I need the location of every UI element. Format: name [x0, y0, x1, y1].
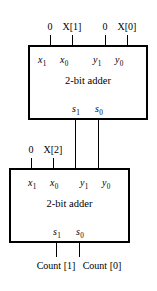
adder-block-top[interactable]: x1 x0 y1 y0 2-bit adder s1 s0 [28, 45, 148, 120]
wire-output-count1 [56, 242, 57, 257]
circuit-diagram: 0 X[1] 0 X[0] 0 X[2] Count [1] Count [0]… [0, 0, 157, 291]
adder-block-bottom-title: 2-bit adder [11, 198, 128, 209]
adder-block-bottom[interactable]: x1 x0 y1 y0 2-bit adder s1 s0 [9, 168, 130, 243]
port-label-bottom-y0: y0 [102, 178, 110, 189]
label-top-input-x0: X[1] [54, 22, 90, 32]
port-label-top-y1: y1 [93, 55, 101, 66]
port-label-bottom-s1: s1 [53, 227, 61, 238]
adder-block-top-title: 2-bit adder [30, 75, 146, 86]
port-label-bottom-y1: y1 [80, 178, 88, 189]
label-bottom-input-x0: X[2] [35, 145, 71, 155]
port-label-bottom-x1: x1 [28, 178, 36, 189]
port-label-top-s0: s0 [95, 104, 103, 115]
port-label-top-y0: y0 [115, 55, 123, 66]
wire-interconnect-s1-to-y1 [75, 118, 76, 170]
port-label-top-x0: x0 [60, 55, 68, 66]
port-label-top-s1: s1 [72, 104, 80, 115]
label-output-count0: Count [0] [60, 261, 144, 271]
wire-output-count0 [79, 242, 80, 257]
label-top-input-y0: X[0] [109, 22, 145, 32]
port-label-bottom-x0: x0 [50, 178, 58, 189]
port-label-top-x1: x1 [38, 55, 46, 66]
wire-interconnect-s0-to-y0 [98, 118, 99, 170]
port-label-bottom-s0: s0 [76, 227, 84, 238]
